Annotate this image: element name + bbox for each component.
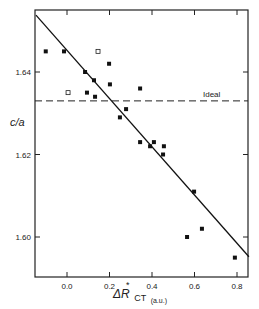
filled-square-point: [152, 140, 156, 144]
filled-square-point: [62, 49, 66, 53]
y-tick-label: 1.60: [15, 233, 31, 242]
open-square-point: [66, 91, 70, 95]
x-axis-label-sub: CT: [134, 293, 146, 303]
filled-square-point: [93, 95, 97, 99]
x-axis-label-superscript: *: [126, 280, 130, 290]
y-tick-label: 1.64: [15, 68, 31, 77]
filled-square-point: [200, 227, 204, 231]
x-tick-label: 0.8: [231, 282, 243, 291]
filled-square-point: [192, 190, 196, 194]
x-axis-label: ΔR CT (a.u.): [112, 284, 167, 305]
filled-square-point: [118, 115, 122, 119]
filled-square-point: [162, 144, 166, 148]
filled-square-point: [107, 62, 111, 66]
regression-line: [36, 15, 249, 257]
filled-square-point: [124, 107, 128, 111]
x-axis-label-unit: (a.u.): [151, 297, 167, 305]
filled-square-point: [92, 78, 96, 82]
filled-square-point: [83, 70, 87, 74]
scatter-chart: 0.00.20.40.60.81.601.621.64 Ideal c/a ΔR…: [0, 0, 259, 309]
filled-square-point: [161, 153, 165, 157]
filled-square-point: [85, 91, 89, 95]
filled-square-point: [185, 235, 189, 239]
filled-square-point: [108, 82, 112, 86]
data-points: [44, 49, 237, 259]
y-tick-label: 1.62: [15, 151, 31, 160]
open-square-point: [96, 49, 100, 53]
fit-line: [36, 15, 249, 257]
axis-ticks: 0.00.20.40.60.81.601.621.64: [15, 10, 248, 291]
y-axis-label: c/a: [10, 116, 25, 128]
ideal-label: Ideal: [203, 90, 221, 99]
filled-square-point: [138, 87, 142, 91]
filled-square-point: [138, 140, 142, 144]
x-tick-label: 0.6: [189, 282, 201, 291]
filled-square-point: [233, 256, 237, 260]
filled-square-point: [148, 144, 152, 148]
x-tick-label: 0.0: [61, 282, 73, 291]
filled-square-point: [44, 49, 48, 53]
